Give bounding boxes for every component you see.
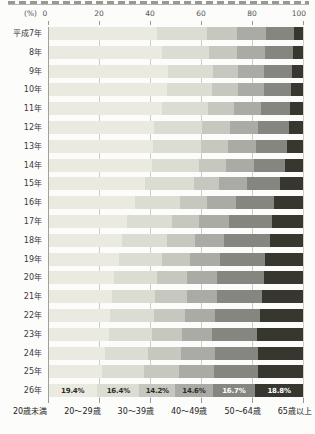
bar-segment xyxy=(257,328,303,341)
bar-segment xyxy=(162,46,209,59)
bar-segment xyxy=(229,215,272,228)
bar-segment xyxy=(172,215,199,228)
bar-segment xyxy=(264,65,292,78)
bar-segment xyxy=(261,102,290,115)
bar-segment xyxy=(181,347,215,360)
bar-segment xyxy=(290,102,302,115)
legend-item: 20歳未満 xyxy=(13,405,47,416)
bar-segment: 14.2% xyxy=(139,384,175,397)
bar-segment xyxy=(199,159,226,172)
legend-item: 65歳以上 xyxy=(278,405,312,416)
bar-segment xyxy=(152,159,199,172)
bar-row xyxy=(48,347,303,360)
bar-segment xyxy=(230,121,258,134)
bar-segment xyxy=(215,347,258,360)
bar-row xyxy=(48,328,303,341)
bar-segment xyxy=(217,271,264,284)
bar-segment xyxy=(202,121,230,134)
segment-value-label: 14.2% xyxy=(146,387,169,395)
bar-segment xyxy=(127,215,172,228)
bar-segment xyxy=(256,140,288,153)
bar-segment xyxy=(270,234,303,247)
bar-segment xyxy=(48,253,119,266)
bar-segment xyxy=(119,253,162,266)
bar-row xyxy=(48,234,303,247)
segment-value-label: 14.6% xyxy=(182,387,205,395)
bar-row xyxy=(48,177,303,190)
bar-segment xyxy=(122,234,167,247)
bar-segment: 16.7% xyxy=(213,384,256,397)
bar-segment xyxy=(209,46,237,59)
bar-segment xyxy=(291,83,302,96)
year-label: 18年 xyxy=(0,234,45,247)
axis-tick-mark xyxy=(48,398,49,403)
bar-row xyxy=(48,46,303,59)
bar-segment xyxy=(258,347,303,360)
axis-tick-mark xyxy=(303,398,304,403)
bar-segment xyxy=(215,309,260,322)
axis-tick-mark xyxy=(99,21,100,25)
bar-segment xyxy=(294,27,303,40)
bar-segment xyxy=(154,309,186,322)
bar-segment xyxy=(48,328,109,341)
bar-segment xyxy=(194,177,220,190)
bar-segment xyxy=(112,290,155,303)
year-label: 26年 xyxy=(0,384,45,397)
bar-segment xyxy=(195,234,223,247)
year-label: 9年 xyxy=(0,65,45,78)
bar-row xyxy=(48,159,303,172)
bar-row xyxy=(48,27,303,40)
bar-segment xyxy=(114,271,157,284)
bar-segment xyxy=(265,46,293,59)
bar-segment xyxy=(234,102,261,115)
bar-segment xyxy=(48,102,162,115)
bar-segment xyxy=(280,177,303,190)
bar-segment xyxy=(264,83,292,96)
bar-segment xyxy=(266,27,294,40)
bar-row xyxy=(48,253,303,266)
bar-segment xyxy=(265,253,303,266)
bar-row xyxy=(48,271,303,284)
bar-segment xyxy=(212,83,238,96)
bar-segment xyxy=(214,365,257,378)
bar-row xyxy=(48,102,303,115)
axis-tick-mark xyxy=(201,398,202,403)
legend-item: 30〜39歳 xyxy=(118,405,154,416)
bar-segment: 16.4% xyxy=(97,384,139,397)
year-label: 12年 xyxy=(0,121,45,134)
bar-segment xyxy=(48,234,122,247)
x-axis-tick-label: 0 xyxy=(30,9,60,18)
bar-segment xyxy=(152,328,182,341)
gridline xyxy=(303,27,304,398)
year-label: 17年 xyxy=(0,215,45,228)
bar-segment xyxy=(208,102,235,115)
bar-row xyxy=(48,309,303,322)
axis-tick-mark xyxy=(201,21,202,25)
bar-segment: 19.4% xyxy=(48,384,97,397)
bar-row xyxy=(48,196,303,209)
year-label: 22年 xyxy=(0,309,45,322)
bar-segment xyxy=(207,27,237,40)
bar-segment xyxy=(285,159,303,172)
axis-tick-mark xyxy=(150,398,151,403)
segment-value-label: 18.8% xyxy=(267,387,290,395)
bar-row xyxy=(48,365,303,378)
gridline xyxy=(48,27,49,398)
x-axis-tick-label: 80 xyxy=(237,9,267,18)
axis-tick-mark xyxy=(150,21,151,25)
axis-tick-mark xyxy=(252,398,253,403)
legend-item: 20〜29歳 xyxy=(64,405,100,416)
bar-segment xyxy=(162,253,190,266)
bar-segment xyxy=(224,234,271,247)
bar-segment xyxy=(48,309,110,322)
bar-segment xyxy=(217,290,262,303)
segment-value-label: 19.4% xyxy=(61,387,84,395)
x-axis-tick-label: 20 xyxy=(84,9,114,18)
x-axis-tick-label: 60 xyxy=(186,9,216,18)
bar-segment xyxy=(48,177,145,190)
bar-segment xyxy=(144,365,179,378)
year-label: 25年 xyxy=(0,365,45,378)
bar-row xyxy=(48,65,303,78)
x-axis-tick-label: 100 xyxy=(284,9,314,18)
bar-segment xyxy=(109,328,152,341)
